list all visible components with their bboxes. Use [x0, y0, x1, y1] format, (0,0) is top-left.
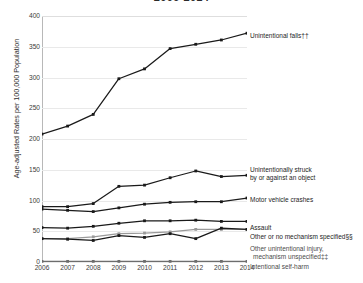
data-point-marker: [220, 220, 223, 223]
series-line: [42, 33, 247, 134]
data-point-marker: [246, 174, 247, 177]
data-point-marker: [117, 234, 120, 237]
series-label-struck-line1: Unintentionally struck: [250, 166, 312, 174]
data-point-marker: [66, 260, 69, 263]
data-point-marker: [66, 238, 69, 241]
data-point-marker: [194, 170, 197, 173]
series-6: [42, 260, 247, 263]
data-point-marker: [92, 260, 95, 263]
data-point-marker: [169, 201, 172, 204]
data-point-marker: [220, 227, 223, 230]
chart-screenshot: 2006-2014 050100150200250300350400 Age-a…: [0, 0, 363, 283]
series-label-struck-line2: by or against an object: [250, 174, 315, 182]
data-point-marker: [117, 222, 120, 225]
data-point-marker: [66, 227, 69, 230]
data-point-marker: [143, 67, 146, 70]
data-point-marker: [92, 225, 95, 228]
data-point-marker: [42, 237, 43, 240]
data-point-marker: [194, 260, 197, 263]
data-point-marker: [246, 220, 247, 223]
data-point-marker: [246, 197, 247, 200]
series-label-motor-vehicle-crashes: Motor vehicle crashes: [250, 196, 313, 204]
data-point-marker: [194, 237, 197, 240]
y-tick-label: 150: [2, 166, 40, 173]
data-point-marker: [117, 185, 120, 188]
data-point-marker: [220, 39, 223, 42]
series-label-unintentional-falls: Unintentional falls††: [250, 32, 309, 40]
data-point-marker: [66, 125, 69, 128]
data-point-marker: [92, 235, 95, 238]
y-axis-title: Age-adjusted Rates per 100,000 Populatio…: [12, 9, 21, 209]
data-point-marker: [143, 232, 146, 235]
series-lines: [42, 16, 247, 263]
data-point-marker: [143, 260, 146, 263]
data-point-marker: [92, 202, 95, 205]
data-point-marker: [42, 208, 43, 211]
data-point-marker: [143, 203, 146, 206]
y-tick-label: 350: [2, 43, 40, 50]
y-tick-label: 100: [2, 197, 40, 204]
data-point-marker: [117, 206, 120, 209]
chart-title: 2006-2014: [0, 0, 363, 3]
data-point-marker: [169, 219, 172, 222]
data-point-marker: [42, 133, 43, 136]
data-point-marker: [92, 113, 95, 116]
y-tick-label: 400: [2, 12, 40, 19]
data-point-marker: [169, 260, 172, 263]
data-point-marker: [194, 200, 197, 203]
series-label-other-or-no-mechanism: Other or no mechanism specified§§: [250, 233, 353, 241]
data-point-marker: [246, 260, 247, 263]
data-point-marker: [169, 47, 172, 50]
x-axis-tick-labels: 200620072008200920102011201220132014: [42, 264, 247, 278]
series-label-other-unintentional-line2: mechanism unspecified‡‡: [253, 253, 328, 261]
y-tick-label: 200: [2, 135, 40, 142]
data-point-marker: [220, 200, 223, 203]
series-label-intentional-self-harm: Intentional self-harm: [250, 263, 309, 271]
data-point-marker: [92, 239, 95, 242]
y-tick-label: 250: [2, 104, 40, 111]
data-point-marker: [92, 210, 95, 213]
data-point-marker: [246, 228, 247, 231]
data-point-marker: [220, 175, 223, 178]
chart-title-cropped: 2006-2014: [0, 0, 363, 9]
data-point-marker: [220, 260, 223, 263]
data-point-marker: [66, 209, 69, 212]
series-label-assault: Assault: [250, 224, 271, 232]
series-2: [42, 197, 247, 213]
data-point-marker: [143, 184, 146, 187]
data-point-marker: [194, 219, 197, 222]
data-point-marker: [66, 205, 69, 208]
data-point-marker: [194, 43, 197, 46]
data-point-marker: [42, 260, 43, 263]
data-point-marker: [42, 205, 43, 208]
series-3: [42, 219, 247, 230]
data-point-marker: [143, 236, 146, 239]
y-tick-label: 300: [2, 74, 40, 81]
data-point-marker: [42, 226, 43, 229]
series-0: [42, 32, 247, 136]
data-point-marker: [194, 228, 197, 231]
data-point-marker: [246, 32, 247, 35]
y-tick-label: 50: [2, 227, 40, 234]
data-point-marker: [143, 219, 146, 222]
data-point-marker: [169, 176, 172, 179]
series-label-other-unintentional-line1: Other unintentional injury,: [250, 245, 324, 253]
data-point-marker: [169, 232, 172, 235]
data-point-marker: [117, 77, 120, 80]
data-point-marker: [117, 260, 120, 263]
